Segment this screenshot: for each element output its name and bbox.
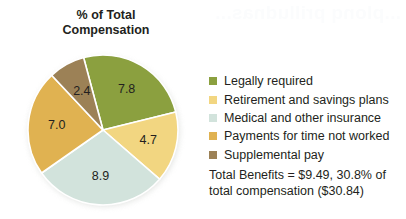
pie-slice-value-label: 4.7 bbox=[140, 133, 157, 147]
pie-slice-value-label: 7.8 bbox=[118, 82, 135, 96]
pie-chart: 7.84.78.97.02.4 bbox=[26, 54, 180, 206]
legend-label-payments-for-time-not-worked: Payments for time not worked bbox=[224, 129, 389, 143]
chart-title-line-2: Compensation bbox=[20, 23, 192, 38]
legend-item-payments-for-time-not-worked[interactable]: Payments for time not worked bbox=[209, 127, 405, 145]
total-benefits-annotation: Total Benefits = $9.49, 30.8% of total c… bbox=[209, 167, 405, 199]
page-bleed-through-text: ...plonq prilludnas... bbox=[186, 2, 401, 52]
legend-swatch-icon-supplemental-pay bbox=[209, 151, 217, 159]
pie-chart-figure: ...plonq prilludnas... % of Total Compen… bbox=[0, 0, 406, 219]
legend-label-legally-required: Legally required bbox=[224, 74, 313, 88]
legend: Legally required Retirement and savings … bbox=[209, 72, 405, 164]
legend-label-retirement-and-savings-plans: Retirement and savings plans bbox=[224, 93, 389, 107]
pie-svg: 7.84.78.97.02.4 bbox=[26, 54, 180, 206]
legend-label-medical-and-other-insurance: Medical and other insurance bbox=[224, 111, 381, 125]
legend-swatch-icon-retirement-and-savings-plans bbox=[209, 96, 217, 104]
legend-item-legally-required[interactable]: Legally required bbox=[209, 72, 405, 90]
legend-swatch-icon-payments-for-time-not-worked bbox=[209, 132, 217, 140]
pie-slice-value-label: 2.4 bbox=[73, 84, 90, 98]
legend-swatch-icon-legally-required bbox=[209, 77, 217, 85]
legend-item-medical-and-other-insurance[interactable]: Medical and other insurance bbox=[209, 109, 405, 127]
pie-slice-value-label: 7.0 bbox=[48, 118, 65, 132]
pie-slice-value-label: 8.9 bbox=[92, 169, 109, 183]
legend-item-supplemental-pay[interactable]: Supplemental pay bbox=[209, 146, 405, 164]
legend-label-supplemental-pay: Supplemental pay bbox=[224, 148, 324, 162]
legend-item-retirement-and-savings-plans[interactable]: Retirement and savings plans bbox=[209, 90, 405, 108]
chart-title-line-1: % of Total bbox=[20, 8, 192, 23]
chart-title: % of Total Compensation bbox=[20, 8, 192, 38]
legend-swatch-icon-medical-and-other-insurance bbox=[209, 114, 217, 122]
total-benefits-line-2: total compensation ($30.84) bbox=[209, 183, 405, 199]
total-benefits-line-1: Total Benefits = $9.49, 30.8% of bbox=[209, 167, 405, 183]
